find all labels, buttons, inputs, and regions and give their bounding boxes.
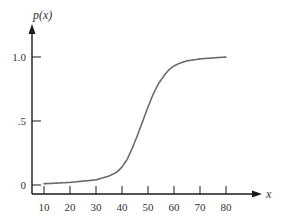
- axes: [29, 24, 263, 198]
- x-axis-arrow-icon: [252, 191, 262, 198]
- x-tick-label: 60: [169, 201, 181, 213]
- x-tick-label: 20: [65, 201, 77, 213]
- x-tick-label: 80: [221, 201, 233, 213]
- x-tick-label: 40: [117, 201, 129, 213]
- x-tick-label: 50: [143, 201, 155, 213]
- x-axis-label: x: [265, 187, 272, 201]
- y-axis-label: p(x): [32, 8, 52, 22]
- x-tick-label: 10: [39, 201, 51, 213]
- y-ticks: 0.51.0: [12, 51, 41, 191]
- chart: p(x) x 0.51.0 1020304050607080: [0, 0, 285, 220]
- x-tick-label: 70: [195, 201, 207, 213]
- x-ticks: 1020304050607080: [39, 186, 233, 213]
- y-tick-label: .5: [18, 115, 27, 127]
- x-tick-label: 30: [91, 201, 103, 213]
- logistic-curve: [44, 57, 226, 184]
- y-tick-label: 0: [21, 179, 27, 191]
- y-axis-arrow-icon: [29, 24, 36, 34]
- y-tick-label: 1.0: [12, 51, 26, 63]
